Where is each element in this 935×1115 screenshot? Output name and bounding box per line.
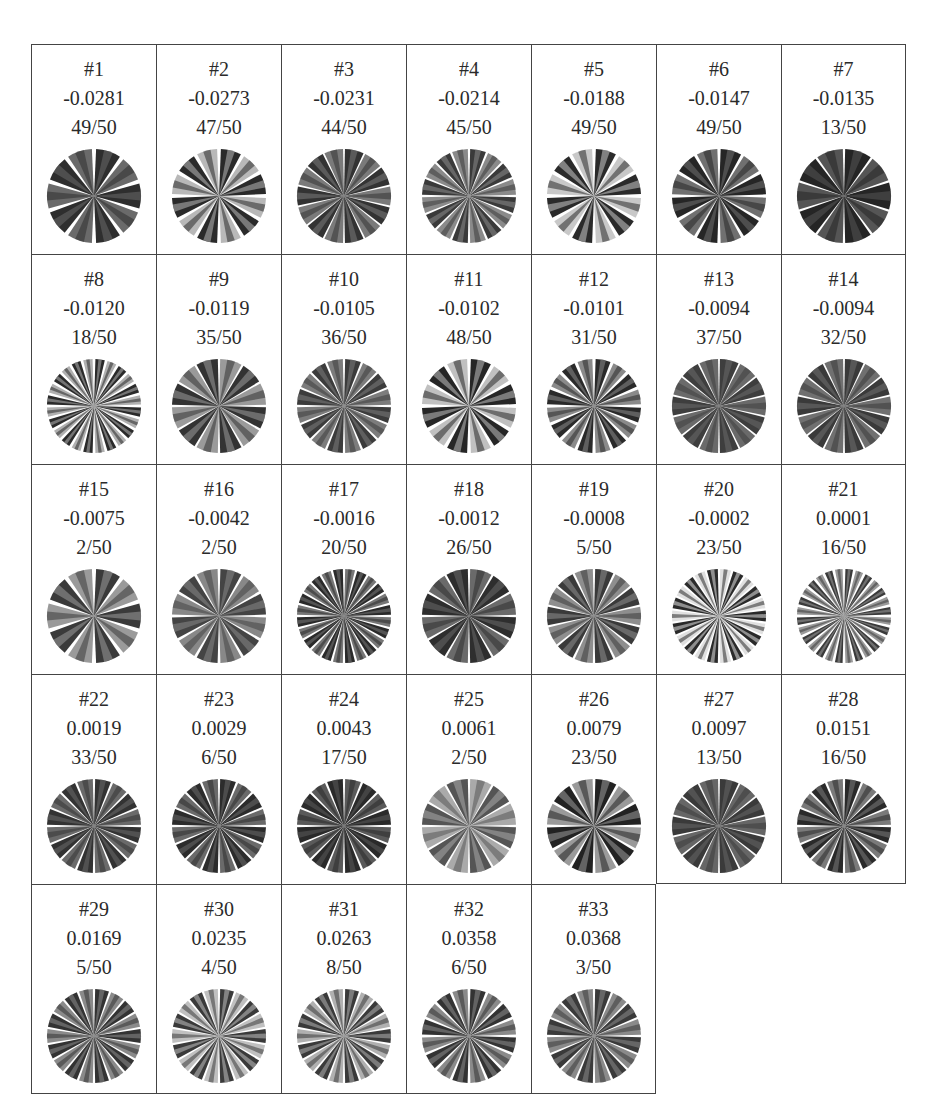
radial-pattern-icon: [795, 357, 893, 455]
radial-pattern-icon: [545, 147, 643, 245]
cell-index-label: #23: [157, 685, 281, 714]
cell-index-label: #29: [32, 895, 156, 924]
cell-count-label: 13/50: [657, 743, 781, 772]
result-cell: #29 0.0169 5/50: [31, 884, 156, 1094]
radial-pattern-icon: [420, 567, 518, 665]
cell-index-label: #5: [532, 55, 656, 84]
cell-index-label: #31: [282, 895, 406, 924]
result-cell: #23 0.0029 6/50: [156, 674, 281, 884]
results-grid: #1 -0.0281 49/50 #2 -0.0273 47/50 #3 -0.…: [31, 44, 906, 1094]
cell-count-label: 5/50: [32, 953, 156, 982]
result-cell: #22 0.0019 33/50: [31, 674, 156, 884]
cell-count-label: 17/50: [282, 743, 406, 772]
cell-index-label: #28: [782, 685, 905, 714]
radial-pattern-icon: [670, 147, 768, 245]
result-cell: #4 -0.0214 45/50: [406, 44, 531, 254]
radial-pattern-icon: [670, 777, 768, 875]
cell-index-label: #14: [782, 265, 905, 294]
cell-count-label: 26/50: [407, 533, 531, 562]
cell-count-label: 23/50: [657, 533, 781, 562]
cell-score-label: 0.0368: [532, 924, 655, 953]
result-cell: #26 0.0079 23/50: [531, 674, 656, 884]
cell-score-label: -0.0281: [32, 84, 156, 113]
cell-index-label: #4: [407, 55, 531, 84]
cell-score-label: -0.0273: [157, 84, 281, 113]
cell-score-label: -0.0135: [782, 84, 905, 113]
cell-count-label: 44/50: [282, 113, 406, 142]
cell-index-label: #20: [657, 475, 781, 504]
cell-index-label: #15: [32, 475, 156, 504]
cell-score-label: 0.0235: [157, 924, 281, 953]
cell-index-label: #30: [157, 895, 281, 924]
cell-score-label: 0.0079: [532, 714, 656, 743]
cell-index-label: #3: [282, 55, 406, 84]
cell-count-label: 16/50: [782, 533, 905, 562]
cell-score-label: 0.0097: [657, 714, 781, 743]
radial-pattern-icon: [45, 987, 143, 1085]
cell-score-label: 0.0061: [407, 714, 531, 743]
radial-pattern-icon: [295, 777, 393, 875]
cell-index-label: #32: [407, 895, 531, 924]
result-cell: #24 0.0043 17/50: [281, 674, 406, 884]
cell-index-label: #16: [157, 475, 281, 504]
radial-pattern-icon: [545, 567, 643, 665]
result-cell: #21 0.0001 16/50: [781, 464, 906, 674]
cell-score-label: 0.0169: [32, 924, 156, 953]
radial-pattern-icon: [420, 357, 518, 455]
cell-score-label: -0.0094: [782, 294, 905, 323]
cell-index-label: #7: [782, 55, 905, 84]
cell-score-label: -0.0120: [32, 294, 156, 323]
radial-pattern-icon: [420, 777, 518, 875]
radial-pattern-icon: [295, 357, 393, 455]
cell-score-label: -0.0042: [157, 504, 281, 533]
radial-pattern-icon: [795, 777, 893, 875]
radial-pattern-icon: [295, 987, 393, 1085]
radial-pattern-icon: [170, 777, 268, 875]
radial-pattern-icon: [170, 357, 268, 455]
radial-pattern-icon: [45, 567, 143, 665]
result-cell: #7 -0.0135 13/50: [781, 44, 906, 254]
radial-pattern-icon: [45, 777, 143, 875]
cell-count-label: 16/50: [782, 743, 905, 772]
cell-index-label: #9: [157, 265, 281, 294]
result-cell: #27 0.0097 13/50: [656, 674, 781, 884]
result-cell: #32 0.0358 6/50: [406, 884, 531, 1094]
cell-index-label: #26: [532, 685, 656, 714]
result-cell: #31 0.0263 8/50: [281, 884, 406, 1094]
cell-index-label: #17: [282, 475, 406, 504]
radial-pattern-icon: [420, 147, 518, 245]
cell-index-label: #25: [407, 685, 531, 714]
result-cell: #8 -0.0120 18/50: [31, 254, 156, 464]
result-cell: #3 -0.0231 44/50: [281, 44, 406, 254]
cell-count-label: 23/50: [532, 743, 656, 772]
radial-pattern-icon: [545, 987, 643, 1085]
cell-index-label: #6: [657, 55, 781, 84]
result-cell: #30 0.0235 4/50: [156, 884, 281, 1094]
cell-index-label: #21: [782, 475, 905, 504]
cell-count-label: 20/50: [282, 533, 406, 562]
radial-pattern-icon: [295, 567, 393, 665]
cell-index-label: #11: [407, 265, 531, 294]
result-cell: #10 -0.0105 36/50: [281, 254, 406, 464]
radial-pattern-icon: [545, 777, 643, 875]
cell-score-label: -0.0119: [157, 294, 281, 323]
cell-count-label: 33/50: [32, 743, 156, 772]
cell-index-label: #22: [32, 685, 156, 714]
cell-index-label: #12: [532, 265, 656, 294]
cell-score-label: -0.0231: [282, 84, 406, 113]
cell-index-label: #24: [282, 685, 406, 714]
cell-score-label: 0.0001: [782, 504, 905, 533]
cell-score-label: 0.0263: [282, 924, 406, 953]
cell-score-label: -0.0075: [32, 504, 156, 533]
cell-count-label: 47/50: [157, 113, 281, 142]
cell-index-label: #33: [532, 895, 655, 924]
cell-count-label: 6/50: [157, 743, 281, 772]
result-cell: #20 -0.0002 23/50: [656, 464, 781, 674]
cell-count-label: 49/50: [657, 113, 781, 142]
cell-score-label: 0.0029: [157, 714, 281, 743]
result-cell: #28 0.0151 16/50: [781, 674, 906, 884]
cell-index-label: #10: [282, 265, 406, 294]
cell-count-label: 45/50: [407, 113, 531, 142]
cell-score-label: -0.0016: [282, 504, 406, 533]
radial-pattern-icon: [420, 987, 518, 1085]
